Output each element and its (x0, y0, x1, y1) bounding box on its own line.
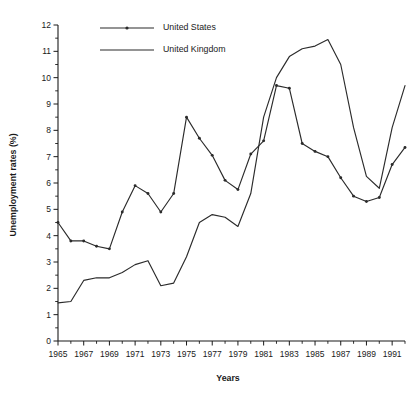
data-point-marker (404, 146, 407, 149)
data-point-marker (185, 116, 188, 119)
legend-label: United States (163, 22, 216, 32)
data-point-marker (365, 200, 368, 203)
x-tick-label: 1985 (306, 349, 325, 359)
series-line-united-kingdom (58, 39, 405, 302)
data-point-marker (224, 179, 227, 182)
x-tick-label: 1977 (203, 349, 222, 359)
data-point-marker (121, 211, 124, 214)
x-tick-label: 1975 (177, 349, 196, 359)
y-tick-label: 9 (46, 99, 51, 109)
chart-figure: 0123456789101112 19651967196919711973197… (0, 0, 415, 401)
x-tick-label: 1991 (383, 349, 402, 359)
data-point-marker (198, 137, 201, 140)
x-tick-label: 1971 (126, 349, 145, 359)
x-tick-label: 1989 (357, 349, 376, 359)
data-point-marker (57, 221, 60, 224)
x-tick-label: 1973 (151, 349, 170, 359)
data-point-marker (314, 150, 317, 153)
line-chart-svg: 0123456789101112 19651967196919711973197… (0, 0, 415, 401)
y-tick-label: 0 (46, 336, 51, 346)
data-point-marker (275, 84, 278, 87)
data-point-marker (249, 153, 252, 156)
data-point-marker (378, 196, 381, 199)
data-point-marker (326, 155, 329, 158)
data-point-marker (301, 142, 304, 145)
data-point-marker (391, 163, 394, 166)
data-point-marker (262, 139, 265, 142)
x-tick-label: 1987 (331, 349, 350, 359)
x-axis: 1965196719691971197319751977197919811983… (49, 341, 405, 359)
data-point-marker (69, 239, 72, 242)
y-axis: 0123456789101112 (42, 20, 58, 346)
data-point-marker (236, 188, 239, 191)
legend-marker (125, 26, 128, 29)
data-point-marker (172, 192, 175, 195)
x-axis-title: Years (216, 373, 240, 383)
x-tick-label: 1981 (254, 349, 273, 359)
data-point-marker (352, 195, 355, 198)
y-tick-label: 12 (42, 20, 52, 30)
y-tick-label: 2 (46, 283, 51, 293)
data-point-marker (147, 192, 150, 195)
data-point-marker (211, 154, 214, 157)
y-tick-label: 5 (46, 204, 51, 214)
data-point-marker (288, 87, 291, 90)
x-tick-label: 1969 (100, 349, 119, 359)
data-point-marker (339, 176, 342, 179)
data-point-marker (134, 184, 137, 187)
data-point-marker (159, 211, 162, 214)
y-tick-label: 6 (46, 178, 51, 188)
y-tick-label: 11 (42, 46, 51, 56)
y-axis-title: Unemployment rates (%) (8, 133, 18, 236)
series-line-united-states (58, 86, 405, 249)
x-tick-label: 1979 (228, 349, 247, 359)
y-tick-label: 1 (46, 310, 51, 320)
data-point-marker (95, 245, 98, 248)
y-tick-label: 4 (46, 231, 51, 241)
x-tick-label: 1967 (74, 349, 93, 359)
legend-label: United Kingdom (163, 44, 226, 54)
x-tick-label: 1983 (280, 349, 299, 359)
data-series-group (57, 39, 407, 302)
y-tick-label: 7 (46, 152, 51, 162)
y-tick-label: 10 (42, 73, 52, 83)
y-tick-label: 3 (46, 257, 51, 267)
y-tick-label: 8 (46, 125, 51, 135)
data-point-marker (108, 247, 111, 250)
chart-legend: United StatesUnited Kingdom (100, 22, 226, 54)
data-point-marker (82, 239, 85, 242)
x-tick-label: 1965 (49, 349, 68, 359)
